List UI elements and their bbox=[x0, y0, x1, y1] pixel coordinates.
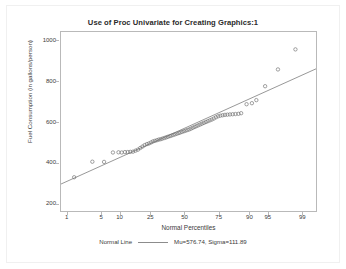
y-tick-mark bbox=[56, 81, 59, 82]
x-tick-label: 95 bbox=[264, 214, 271, 220]
y-tick-mark bbox=[56, 40, 59, 41]
data-point-marker bbox=[91, 160, 94, 163]
data-point-marker bbox=[117, 151, 120, 154]
y-tick-label: 200 bbox=[34, 200, 56, 206]
data-point-marker bbox=[263, 85, 266, 88]
data-point-marker bbox=[276, 68, 279, 71]
y-tick-label: 1000 bbox=[34, 37, 56, 43]
x-tick-label: 1 bbox=[65, 214, 68, 220]
y-tick-mark bbox=[56, 204, 59, 205]
legend-series-label: Normal Line bbox=[99, 239, 132, 245]
x-tick-label: 5 bbox=[99, 214, 102, 220]
plot-svg bbox=[61, 32, 316, 211]
y-axis-tick-labels: 2004006008001000 bbox=[32, 31, 56, 212]
y-tick-label: 600 bbox=[34, 119, 56, 125]
page-title: Use of Proc Univariate for Creating Grap… bbox=[0, 18, 346, 27]
data-point-marker bbox=[294, 48, 297, 51]
x-tick-label: 99 bbox=[299, 214, 306, 220]
chart-canvas: Use of Proc Univariate for Creating Grap… bbox=[0, 0, 346, 269]
x-tick-label: 75 bbox=[215, 214, 222, 220]
y-tick-mark bbox=[56, 122, 59, 123]
data-point-marker bbox=[102, 160, 105, 163]
data-point-marker bbox=[120, 151, 123, 154]
data-point-marker bbox=[255, 98, 258, 101]
x-tick-label: 90 bbox=[246, 214, 253, 220]
x-tick-label: 50 bbox=[181, 214, 188, 220]
legend-line-swatch bbox=[138, 242, 168, 243]
legend-stats-label: Mu=576.74, Sigma=111.89 bbox=[174, 239, 247, 245]
normal-reference-line bbox=[61, 69, 316, 184]
legend: Normal Line Mu=576.74, Sigma=111.89 bbox=[0, 239, 346, 245]
x-axis-title: Normal Percentiles bbox=[60, 224, 317, 231]
data-point-marker bbox=[111, 151, 114, 154]
x-tick-label: 10 bbox=[116, 214, 123, 220]
data-point-marker bbox=[210, 118, 213, 121]
data-point-marker bbox=[245, 103, 248, 106]
x-tick-label: 25 bbox=[147, 214, 154, 220]
y-tick-label: 400 bbox=[34, 159, 56, 165]
y-tick-mark bbox=[56, 163, 59, 164]
y-tick-label: 800 bbox=[34, 78, 56, 84]
plot-area bbox=[60, 31, 317, 212]
data-point-marker bbox=[250, 101, 253, 104]
